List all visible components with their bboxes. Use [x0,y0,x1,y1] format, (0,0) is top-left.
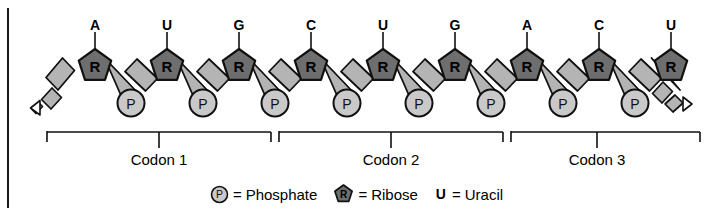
legend-text-ribose: Ribose [371,187,418,202]
base-letter-3: G [234,18,245,32]
rna-codon-figure: P P P P P P P P R R R R R R [0,0,713,222]
codon-label-2: Codon 2 [363,152,420,167]
uracil-letter: U [434,187,448,201]
base-letter-5: U [378,18,388,32]
legend: P = Phosphate R = Ribose U = Uracil [0,184,713,204]
ribose-label: R [594,58,605,75]
legend-equals-uracil: = [452,187,461,202]
codon-brackets [47,131,700,148]
phosphate-label: P [198,96,207,112]
phosphate-label: P [630,96,639,112]
phosphate-label: P [414,96,423,112]
base-letter-8: C [594,18,604,32]
phosphate-label: P [126,96,135,112]
codon-bracket-2 [279,131,503,148]
phosphate-label: P [342,96,351,112]
base-letter-9: U [666,18,676,32]
legend-equals-ribose: = [358,187,367,202]
ribose-label: R [666,58,677,75]
legend-text-phosphate: Phosphate [246,187,318,202]
base-letter-7: A [522,18,532,32]
strand-end-right [653,82,684,112]
ribose-label: R [234,58,245,75]
strand-end-arrow-right [683,97,692,111]
phosphate-group [118,90,649,117]
phosphate-label: P [486,96,495,112]
codon-bracket-3 [511,131,700,148]
legend-text-uracil: Uracil [465,187,503,202]
phosphate-label: P [558,96,567,112]
base-letter-2: U [162,18,172,32]
legend-item-uracil: U = Uracil [434,187,503,202]
ribose-pentagon-icon: R [333,184,354,204]
ribose-label: R [378,58,389,75]
base-letter-4: C [306,18,316,32]
ribose-label: R [162,58,173,75]
codon-label-3: Codon 3 [569,152,626,167]
phosphate-labels: P P P P P P P P [126,96,639,112]
ribose-label: R [522,58,533,75]
ribose-icon-symbol: R [340,189,348,200]
codon-bracket-1 [47,131,271,148]
ribose-label: R [450,58,461,75]
legend-equals-phosphate: = [233,187,242,202]
legend-item-ribose: R = Ribose [333,184,417,204]
base-letter-1: A [90,18,100,32]
phosphate-icon-symbol: P [216,189,223,200]
phosphate-circle-icon: P [210,185,229,204]
ribose-label: R [306,58,317,75]
base-letter-6: G [450,18,461,32]
codon-label-1: Codon 1 [131,152,188,167]
phosphate-label: P [270,96,279,112]
ribose-label: R [90,58,101,75]
legend-item-phosphate: P = Phosphate [210,185,318,204]
